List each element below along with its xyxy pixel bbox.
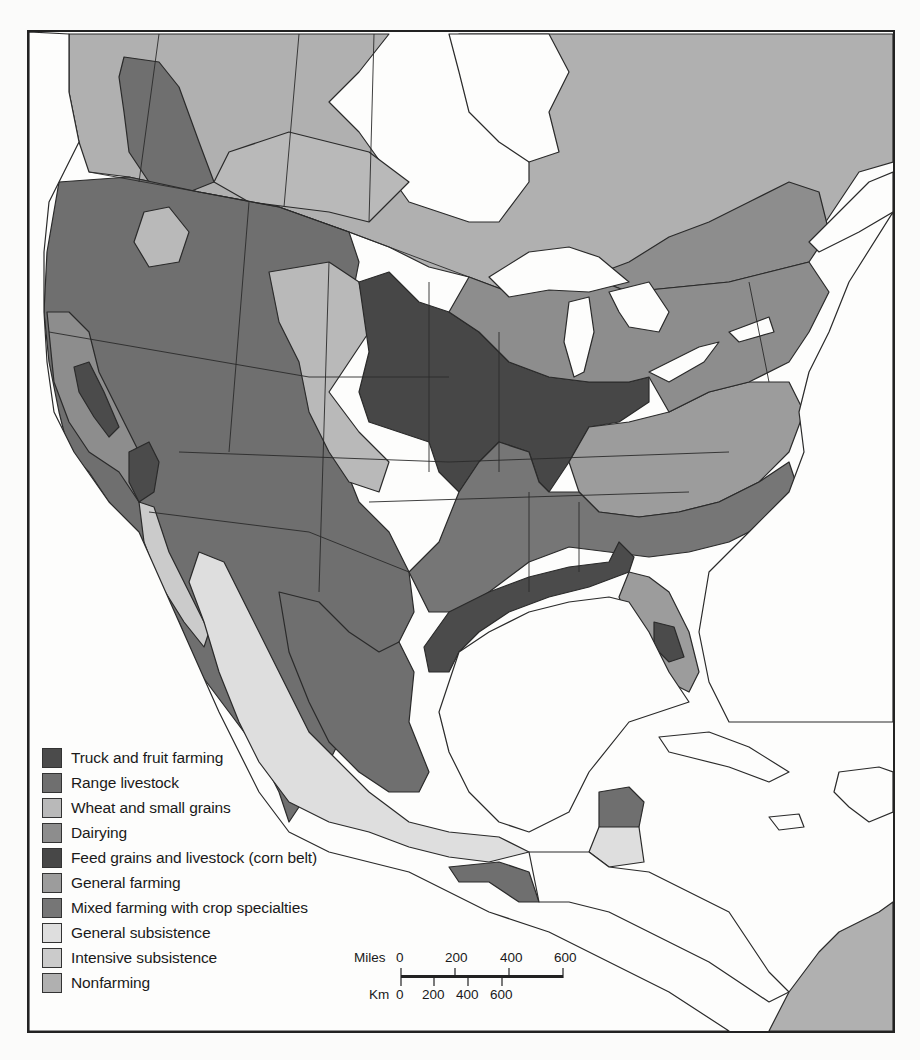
legend-label: General farming	[71, 874, 181, 892]
legend-item-nonfarming: Nonfarming	[42, 972, 317, 994]
scale-miles-tick-200: 200	[445, 950, 468, 965]
legend-item-dairying: Dairying	[42, 822, 317, 844]
jamaica-outline	[769, 814, 804, 830]
swatch-wheat	[42, 798, 62, 818]
swatch-nonfarming	[42, 973, 62, 993]
swatch-mixed-farming	[42, 898, 62, 918]
swatch-dairying	[42, 823, 62, 843]
legend-item-range-livestock: Range livestock	[42, 772, 317, 794]
legend-item-general-subsistence: General subsistence	[42, 922, 317, 944]
region-yucatan-range	[599, 787, 644, 832]
legend-label: Range livestock	[71, 774, 179, 792]
scale-miles-tick-400: 400	[500, 950, 523, 965]
legend-item-mixed-farming: Mixed farming with crop specialties	[42, 897, 317, 919]
legend-item-intensive-subsistence: Intensive subsistence	[42, 947, 317, 969]
scale-km-tick-200: 200	[422, 987, 445, 1002]
legend-label: Truck and fruit farming	[71, 749, 223, 767]
scale-miles-tick-600: 600	[554, 950, 577, 965]
legend-label: Mixed farming with crop specialties	[71, 899, 308, 917]
legend-item-truck-fruit: Truck and fruit farming	[42, 747, 317, 769]
legend-label: Nonfarming	[71, 974, 150, 992]
scale-miles-tick-0: 0	[396, 950, 404, 965]
scale-miles-label: Miles	[354, 950, 386, 965]
legend-label: Feed grains and livestock (corn belt)	[71, 849, 317, 867]
swatch-general-subsistence	[42, 923, 62, 943]
legend-label: Wheat and small grains	[71, 799, 231, 817]
scale-km-tick-0: 0	[396, 987, 404, 1002]
swatch-corn-belt	[42, 848, 62, 868]
scale-km-tick-600: 600	[490, 987, 513, 1002]
legend-label: General subsistence	[71, 924, 210, 942]
swatch-general-farming	[42, 873, 62, 893]
swatch-range-livestock	[42, 773, 62, 793]
swatch-truck-fruit	[42, 748, 62, 768]
scale-bar: Miles 0 200 400 600 Km 0 200 400 600	[354, 950, 614, 1010]
scale-bar-graphic	[354, 966, 614, 1006]
legend-label: Dairying	[71, 824, 127, 842]
legend-label: Intensive subsistence	[71, 949, 217, 967]
cuba-outline	[659, 732, 789, 782]
scale-km-label: Km	[369, 987, 389, 1002]
hispaniola-outline	[834, 767, 893, 822]
region-chiapas-range	[449, 862, 539, 902]
legend-item-general-farming: General farming	[42, 872, 317, 894]
map-legend: Truck and fruit farming Range livestock …	[42, 747, 317, 997]
map-frame: Truck and fruit farming Range livestock …	[27, 30, 895, 1033]
swatch-intensive-subsistence	[42, 948, 62, 968]
region-south-america	[769, 902, 893, 1031]
legend-item-corn-belt: Feed grains and livestock (corn belt)	[42, 847, 317, 869]
hudson-bay	[449, 34, 569, 162]
legend-item-wheat: Wheat and small grains	[42, 797, 317, 819]
scale-km-tick-400: 400	[456, 987, 479, 1002]
